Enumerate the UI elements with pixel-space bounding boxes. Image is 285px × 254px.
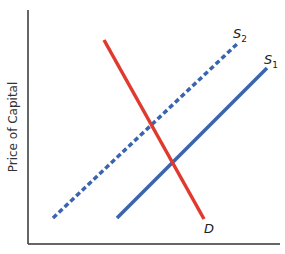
s2-label: S2: [233, 26, 247, 44]
demand-curve: [104, 40, 204, 219]
s1-label: S1: [264, 52, 278, 70]
y-axis-label: Price of Capital: [2, 0, 24, 254]
d-label: D: [204, 221, 214, 236]
